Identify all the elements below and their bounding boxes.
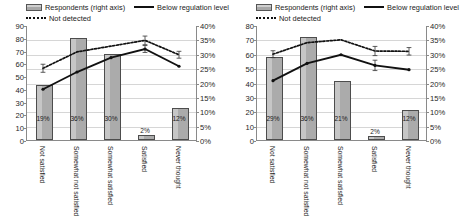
legend-item-respondents: Respondents (right axis) <box>256 3 355 12</box>
y-axis-right-tick-mark <box>196 40 199 41</box>
y-axis-right-tick-mark <box>426 127 429 128</box>
solid-line-swatch-icon <box>364 6 384 8</box>
y-axis-left-tick-label: 0 <box>230 137 254 146</box>
x-axis-tick-label: Somewhat satisfied <box>107 146 114 205</box>
y-axis-right-tick-label: 5% <box>430 122 456 131</box>
y-axis-left-tick-label: 50 <box>0 73 24 82</box>
y-axis-left-tick-mark <box>23 39 26 40</box>
y-axis-right-tick-mark <box>196 127 199 128</box>
y-axis-left-tick-mark <box>253 127 256 128</box>
y-axis-left-tick-label: 10 <box>230 122 254 131</box>
y-axis-left-tick-mark <box>253 40 256 41</box>
y-axis-left-tick-mark <box>23 77 26 78</box>
x-axis-tick-label: Somewhat satisfied <box>337 146 344 205</box>
y-axis-right-tick-label: 5% <box>200 122 226 131</box>
y-axis-left-tick-label: 70 <box>230 36 254 45</box>
below-regulation-line <box>273 55 409 81</box>
y-axis-left-tick-label: 60 <box>0 60 24 69</box>
data-point-marker <box>305 62 308 65</box>
y-axis-right-tick-label: 35% <box>430 36 456 45</box>
bar-swatch-icon <box>256 4 272 11</box>
y-axis-right-tick-label: 15% <box>430 93 456 102</box>
y-axis-left-tick-label: 20 <box>230 108 254 117</box>
y-axis-right-tick-mark <box>196 69 199 70</box>
y-axis-right-tick-label: 30% <box>200 50 226 59</box>
y-axis-right-tick-mark <box>426 55 429 56</box>
data-point-marker <box>373 64 376 67</box>
y-axis-left-tick-mark <box>253 69 256 70</box>
y-axis-left-tick-label: 20 <box>0 111 24 120</box>
x-axis-tick-label: Satisfied <box>371 146 378 172</box>
x-axis-tick-label: Never thought <box>175 146 182 189</box>
bar-value-label: 29% <box>266 115 279 122</box>
y-axis-left-tick-mark <box>253 112 256 113</box>
y-axis-right-tick-mark <box>196 55 199 56</box>
y-axis-left-tick-mark <box>23 52 26 53</box>
y-axis-right-tick-label: 25% <box>200 65 226 74</box>
legend-label-respondents: Respondents (right axis) <box>45 3 125 12</box>
y-axis-left-tick-mark <box>253 84 256 85</box>
legend-label-not-detected: Not detected <box>279 14 321 23</box>
y-axis-left-tick-mark <box>253 98 256 99</box>
data-point-marker <box>143 47 146 50</box>
y-axis-left-tick-label: 40 <box>0 85 24 94</box>
legend-label-below-regulation: Below regulation level <box>157 3 229 12</box>
legend-item-respondents: Respondents (right axis) <box>26 3 125 12</box>
y-axis-left-tick-label: 90 <box>0 22 24 31</box>
data-point-marker <box>41 88 44 91</box>
y-axis-right-tick-mark <box>426 26 429 27</box>
legend-left: Respondents (right axis) Below regulatio… <box>26 2 226 24</box>
line-series-left <box>26 26 196 141</box>
legend-item-below-regulation: Below regulation level <box>134 3 229 12</box>
y-axis-right-tick-label: 30% <box>430 50 456 59</box>
y-axis-right-tick-mark <box>426 84 429 85</box>
data-point-marker <box>407 68 410 71</box>
y-axis-left-tick-label: 0 <box>0 137 24 146</box>
x-axis-tick-label: Somewhat not satisfied <box>303 146 310 216</box>
y-axis-left-tick-mark <box>23 103 26 104</box>
data-point-marker <box>75 70 78 73</box>
dotted-line-swatch-icon <box>26 17 46 19</box>
y-axis-right-tick-label: 10% <box>200 108 226 117</box>
y-axis-left-tick-label: 40 <box>230 79 254 88</box>
y-axis-right-tick-mark <box>196 26 199 27</box>
bar-value-label: 36% <box>300 115 313 122</box>
y-axis-left-tick-mark <box>23 90 26 91</box>
y-axis-right-tick-label: 20% <box>200 79 226 88</box>
x-axis-tick-label: Not satisfied <box>39 146 46 183</box>
y-axis-left-tick-label: 80 <box>230 22 254 31</box>
bar-value-label: 21% <box>334 115 347 122</box>
dotted-line-swatch-icon <box>256 17 276 19</box>
x-axis-tick-label: Not satisfied <box>269 146 276 183</box>
bar-value-label: 30% <box>104 115 117 122</box>
y-axis-left-tick-label: 30 <box>0 98 24 107</box>
y-axis-right-tick-mark <box>196 112 199 113</box>
below-regulation-line <box>43 49 179 89</box>
y-axis-right-tick-mark <box>196 98 199 99</box>
y-axis-left-tick-label: 60 <box>230 50 254 59</box>
data-point-marker <box>339 53 342 56</box>
bar-swatch-icon <box>26 4 42 11</box>
x-axis-tick-label: Somewhat not satisfied <box>73 146 80 216</box>
solid-line-swatch-icon <box>134 6 154 8</box>
legend-label-respondents: Respondents (right axis) <box>275 3 355 12</box>
bar-value-label: 12% <box>172 115 185 122</box>
y-axis-right-tick-label: 40% <box>200 22 226 31</box>
y-axis-left-tick-mark <box>23 115 26 116</box>
y-axis-left-tick-label: 70 <box>0 47 24 56</box>
y-axis-left-tick-mark <box>23 26 26 27</box>
y-axis-left-tick-label: 80 <box>0 34 24 43</box>
y-axis-right-tick-mark <box>196 84 199 85</box>
data-point-marker <box>109 56 112 59</box>
y-axis-right-tick-label: 0% <box>430 137 456 146</box>
chart-panel-left: Respondents (right axis) Below regulatio… <box>0 0 230 218</box>
legend-label-below-regulation: Below regulation level <box>387 3 459 12</box>
y-axis-right-tick-label: 15% <box>200 93 226 102</box>
x-axis-tick-label: Never thought <box>405 146 412 189</box>
bar-value-label: 36% <box>70 115 83 122</box>
line-series-right <box>256 26 426 141</box>
y-axis-right-tick-label: 35% <box>200 36 226 45</box>
bar-value-label: 12% <box>402 115 415 122</box>
y-axis-left-tick-mark <box>23 64 26 65</box>
legend-item-below-regulation: Below regulation level <box>364 3 459 12</box>
